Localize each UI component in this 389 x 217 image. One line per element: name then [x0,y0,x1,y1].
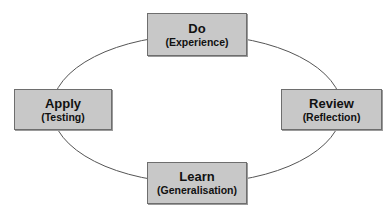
node-review-subtitle: (Reflection) [303,111,361,124]
node-apply: Apply (Testing) [14,89,112,130]
node-apply-subtitle: (Testing) [41,111,85,124]
node-learn-title: Learn [179,169,214,184]
node-review-title: Review [309,96,354,111]
node-do-title: Do [188,21,205,36]
node-learn-subtitle: (Generalisation) [157,184,237,197]
node-do-subtitle: (Experience) [165,36,228,49]
node-do: Do (Experience) [147,13,247,56]
node-apply-title: Apply [45,96,81,111]
node-review: Review (Reflection) [281,89,382,130]
node-learn: Learn (Generalisation) [147,162,247,204]
